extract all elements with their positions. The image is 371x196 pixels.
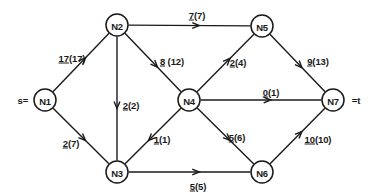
edge-capacity-value: (6) — [234, 132, 245, 143]
edge-capacity-value: (17) — [69, 53, 86, 64]
edge-label-n1-n3: 2(7) — [63, 138, 80, 149]
edge-n2-to-n5 — [128, 23, 250, 29]
edge-label-n4-n7: 0(1) — [263, 87, 280, 98]
edge-label-n5-n7: 9(13) — [307, 56, 329, 67]
edge-n4-to-n7 — [201, 97, 322, 103]
edge-line — [128, 25, 250, 26]
edge-n3-to-n6 — [129, 169, 251, 175]
sink-text: =t — [352, 95, 361, 106]
edge-flow-value: 10 — [305, 134, 315, 145]
edge-label-n4-n3: 1(1) — [154, 134, 171, 145]
node-label-n5: N5 — [256, 21, 268, 32]
edge-capacity-value: (12) — [165, 56, 184, 67]
edge-capacity-value: (4) — [235, 57, 246, 68]
node-label-n3: N3 — [111, 167, 123, 178]
network-flow-diagram: 17(17)2(7)7(7)8 (12)2(2)2(4)0(1)1(1)5(6)… — [0, 0, 371, 196]
node-label-n7: N7 — [327, 95, 339, 106]
source-text: s= — [18, 95, 29, 106]
edge-n1-to-n3 — [53, 108, 109, 164]
edge-label-n2-n3: 2(2) — [123, 100, 140, 111]
edge-capacity-value: (1) — [159, 134, 170, 145]
edge-line — [53, 108, 109, 164]
edge-label-n4-n5: 2(4) — [230, 57, 247, 68]
node-label-n6: N6 — [256, 167, 268, 178]
edge-capacity-value: (10) — [315, 134, 332, 145]
node-label-n2: N2 — [111, 20, 123, 31]
edge-label-n2-n5: 7(7) — [189, 10, 206, 21]
edge-capacity-value: (2) — [128, 100, 139, 111]
node-label-n1: N1 — [39, 95, 51, 106]
edge-label-n1-n2: 17(17) — [59, 53, 86, 64]
edge-label-n6-n7: 10(10) — [305, 134, 332, 145]
edge-capacity-value: (7) — [68, 138, 79, 149]
edge-label-n3-n6: 5(5) — [190, 181, 207, 192]
edge-label-n4-n6: 5(6) — [229, 132, 246, 143]
edge-label-n2-n4: 8 (12) — [160, 56, 184, 67]
edge-capacity-value: (13) — [312, 56, 329, 67]
edge-capacity-value: (7) — [194, 10, 205, 21]
edge-flow-value: 17 — [59, 53, 69, 64]
edge-capacity-value: (1) — [268, 87, 279, 98]
edge-n4-to-n6 — [197, 108, 254, 164]
edge-line — [197, 108, 254, 164]
edge-n2-to-n3 — [114, 37, 120, 161]
edge-capacity-value: (5) — [195, 181, 206, 192]
node-label-n4: N4 — [183, 95, 195, 106]
